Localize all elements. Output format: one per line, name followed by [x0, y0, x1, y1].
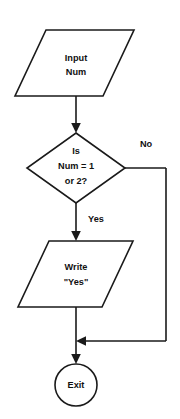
write-node-line2: "Yes"	[64, 277, 89, 287]
arrowhead-no-merge	[76, 336, 86, 346]
decision-node-line3: or 2?	[65, 176, 88, 186]
input-node-line2: Num	[66, 67, 86, 77]
arrowhead-yes-to-write	[71, 231, 81, 241]
flowchart-canvas: Input Num Is Num = 1 or 2? No Yes Write …	[0, 0, 180, 419]
edge-label-yes: Yes	[88, 214, 104, 224]
decision-node-line2: Num = 1	[58, 161, 94, 171]
flowchart-diagram: Input Num Is Num = 1 or 2? No Yes Write …	[0, 0, 180, 419]
arrowhead-to-exit	[71, 354, 81, 364]
decision-node-line1: Is	[72, 146, 80, 156]
arrowhead-input-to-decision	[71, 123, 81, 133]
write-node-line1: Write	[65, 262, 88, 272]
exit-node-label: Exit	[68, 380, 85, 390]
edge-label-no: No	[140, 139, 153, 149]
write-parallelogram	[18, 241, 133, 307]
input-node-line1: Input	[65, 53, 87, 63]
